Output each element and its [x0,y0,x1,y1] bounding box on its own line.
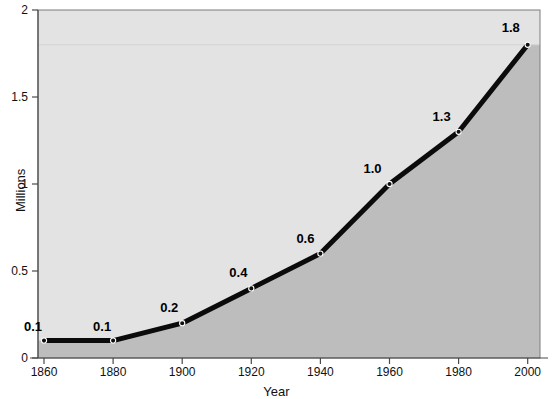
y-axis-tick-label: 0.5 [0,265,28,277]
data-point-label: 0.6 [296,232,314,245]
x-axis-tick-label: 1880 [73,366,153,378]
data-point-label: 1.8 [502,21,520,34]
data-point-label: 0.1 [24,320,42,333]
x-axis-tick-label: 2000 [488,366,553,378]
data-point-label: 0.4 [229,266,247,279]
x-axis-ticks [44,358,528,364]
data-point-marker [41,338,46,343]
x-axis-tick-label: 1960 [350,366,430,378]
data-point-marker [180,321,185,326]
data-point-marker [111,338,116,343]
data-point-label: 0.2 [160,301,178,314]
x-axis-tick-label: 1920 [211,366,291,378]
x-axis-tick-label: 1900 [142,366,222,378]
data-point-marker [318,251,323,256]
data-point-label: 1.0 [364,162,382,175]
y-axis-title: Millions [14,169,27,212]
y-axis-ticks [32,10,38,358]
data-point-marker [525,42,530,47]
x-axis-tick-label: 1940 [280,366,360,378]
x-axis-title: Year [0,385,553,398]
x-axis-tick-label: 1860 [4,366,84,378]
y-axis-tick-label: 1.5 [0,91,28,103]
y-axis-tick-label: 0 [0,352,28,364]
data-point-marker [249,286,254,291]
data-point-label: 0.1 [93,320,111,333]
data-point-marker [456,129,461,134]
y-axis-tick-label: 2 [0,4,28,16]
x-axis-tick-label: 1980 [419,366,499,378]
data-point-marker [387,181,392,186]
data-point-label: 1.3 [433,110,451,123]
